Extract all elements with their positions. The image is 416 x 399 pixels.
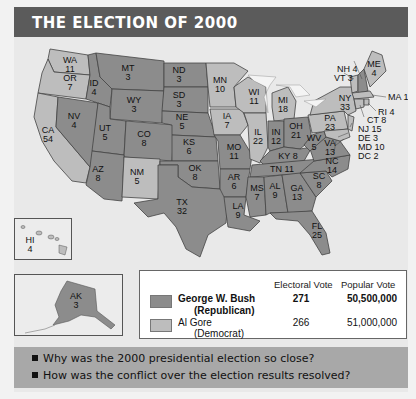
state-co [124,121,174,161]
label-pa: PA23 [324,113,335,132]
hawaii-inset: HI4 [14,218,72,260]
label-oh: OH21 [289,121,303,140]
label-vt: VT 3 [334,73,353,83]
label-tn: TN 11 [270,164,294,174]
candidate-bush-name: George W. Bush [178,293,255,304]
hawaii-map: HI4 [15,219,71,259]
label-ny: NY33 [339,93,352,112]
title-bar: THE ELECTION OF 2000 [14,7,408,37]
label-ca: CA54 [42,125,55,144]
gore-electoral-vote: 266 [286,317,316,328]
bush-popular-vote: 50,500,000 [342,293,402,304]
state-nj [348,115,354,131]
label-ky: KY 8 [278,151,297,161]
label-il: IL22 [253,127,263,146]
state-az [86,151,124,201]
state-nd [164,63,208,87]
republican-swatch [150,295,172,308]
bush-electoral-vote: 271 [286,293,316,304]
alaska-map: AK3 [15,275,122,335]
state-ri [364,99,369,105]
focus-questions: Why was the 2000 presidential election s… [14,347,408,388]
question-text: Why was the 2000 presidential election s… [43,352,314,365]
label-mn: MN10 [213,75,227,94]
candidate-bush-party: (Republican) [194,305,255,316]
label-nc: NC14 [326,156,339,175]
question-item: Why was the 2000 presidential election s… [32,352,314,365]
label-mi: MI18 [278,95,288,114]
label-va: VA13 [324,138,335,157]
alaska-inset: AK3 [14,274,123,336]
question-item: How was the conflict over the election r… [32,369,350,382]
figure-title: THE ELECTION OF 2000 [32,14,238,32]
label-fl: FL25 [312,221,323,240]
label-wi: WI11 [249,87,260,106]
legend-header-popular: Popular Vote [341,279,395,290]
us-election-map: WA11 OR7 CA54 NV4 ID4 MT3 WY3 UT5 CO8 AZ… [14,37,408,267]
label-ma: MA 12 [388,92,408,102]
square-bullet-icon [32,355,38,361]
legend: Electoral Vote Popular Vote George W. Bu… [139,270,407,339]
label-dc: DC 2 [358,151,379,161]
legend-header-electoral: Electoral Vote [274,279,333,290]
label-in: IN12 [271,127,281,146]
candidate-gore-party: (Democrat) [194,328,244,339]
square-bullet-icon [32,372,38,378]
label-hi: HI4 [26,235,35,254]
state-ct [354,99,364,109]
leader-line [368,103,376,111]
state-nm [122,157,160,199]
gore-popular-vote: 51,000,000 [342,317,402,328]
question-text: How was the conflict over the election r… [43,369,350,382]
candidate-gore-name: Al Gore [178,317,212,328]
democrat-swatch [150,319,172,332]
label-tx: TX32 [176,197,188,216]
label-ga: GA13 [290,183,303,202]
